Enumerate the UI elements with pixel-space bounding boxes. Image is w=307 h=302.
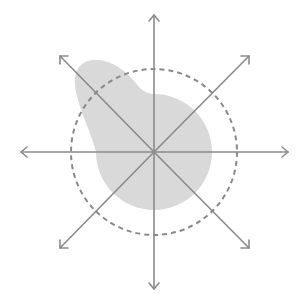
axes [21, 15, 288, 289]
pattern-lobe [75, 60, 212, 210]
radiation-pattern-diagram [0, 0, 307, 302]
